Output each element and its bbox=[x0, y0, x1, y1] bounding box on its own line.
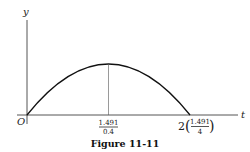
figure-caption: Figure 11-11 bbox=[91, 138, 160, 149]
peak-tick-label: 1.491 0.4 bbox=[98, 119, 118, 136]
t-axis-label: t bbox=[241, 109, 246, 120]
end-denominator: 4 bbox=[198, 128, 203, 136]
peak-numerator: 1.491 bbox=[98, 119, 118, 127]
origin-label: O bbox=[17, 116, 25, 127]
end-coefficient: 2 bbox=[178, 120, 185, 133]
parabola-figure: y t O 1.491 0.4 2 ( 1.491 4 ) Figure 11-… bbox=[0, 0, 250, 152]
end-close-paren: ) bbox=[209, 118, 214, 134]
end-tick-label: 2 ( 1.491 4 ) bbox=[178, 118, 214, 136]
end-numerator: 1.491 bbox=[190, 118, 210, 126]
y-axis-label: y bbox=[22, 6, 29, 17]
peak-denominator: 0.4 bbox=[103, 128, 115, 136]
